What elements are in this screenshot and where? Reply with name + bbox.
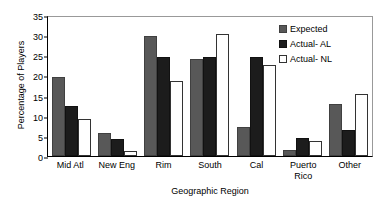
bar-group [48,17,94,156]
x-axis-tick-label: Mid Atl [47,160,94,182]
legend-swatch-expected [279,25,287,33]
x-axis-tick-label-line: South [198,160,222,170]
bar-expected [190,59,203,156]
bar-actual-nl [124,151,137,156]
legend-label: Expected [290,24,328,34]
x-axis-title: Geographic Region [47,186,373,196]
bar-group [233,17,279,156]
x-axis-tick-label-line: Mid Atl [57,160,84,170]
x-axis-tick-label-line: Puerto [290,160,317,170]
legend-label: Actual- NL [290,54,332,64]
bar-chart: Percentage of Players 05101520253035 Mid… [0,0,389,209]
y-axis-tick-label: 10 [3,113,48,123]
bar-expected [144,36,157,156]
bar-group [141,17,187,156]
bar-actual-al [157,57,170,156]
x-axis-tick-label-line: Cal [250,160,264,170]
bar-expected [283,150,296,156]
bar-actual-nl [78,119,91,156]
chart-legend: ExpectedActual- ALActual- NL [279,24,332,64]
bar-group [94,17,140,156]
bar-actual-nl [263,65,276,156]
x-axis-tick-label: Rim [140,160,187,182]
bar-actual-nl [355,94,368,156]
y-axis-tick-label: 25 [3,52,48,62]
legend-swatch-actual-al [279,40,287,48]
y-axis-tick-label: 20 [3,72,48,82]
bar-group [187,17,233,156]
bar-actual-al [111,139,124,156]
bar-actual-nl [309,141,322,156]
bar-group [326,17,372,156]
x-axis-tick-label-line: Other [339,160,362,170]
legend-item: Actual- AL [279,39,332,49]
y-axis-tick-label: 30 [3,32,48,42]
bar-actual-al [250,57,263,156]
legend-item: Actual- NL [279,54,332,64]
legend-swatch-actual-nl [279,55,287,63]
x-axis-tick-label: New Eng [94,160,141,182]
bar-actual-al [342,130,355,156]
x-axis-tick-label: Other [326,160,373,182]
y-axis-tick-mark [44,158,48,159]
x-axis-tick-label: PuertoRico [280,160,327,182]
x-axis-tick-labels: Mid AtlNew EngRimSouthCalPuertoRicoOther [47,160,373,182]
bar-expected [329,104,342,156]
bar-actual-al [203,57,216,156]
bar-expected [52,77,65,156]
bar-expected [237,127,250,156]
y-axis-tick-label: 15 [3,93,48,103]
bar-actual-nl [216,34,229,156]
x-axis-tick-label-line: Rico [280,171,327,182]
legend-item: Expected [279,24,332,34]
x-axis-tick-label-line: Rim [155,160,171,170]
y-axis-tick-label: 5 [3,133,48,143]
x-axis-tick-label-line: New Eng [99,160,136,170]
x-axis-tick-label: Cal [233,160,280,182]
x-axis-tick-label: South [187,160,234,182]
legend-label: Actual- AL [290,39,331,49]
y-axis-tick-label: 35 [3,12,48,22]
bar-expected [98,133,111,156]
bar-actual-nl [170,81,183,156]
bar-actual-al [296,138,309,156]
y-axis-tick-label: 0 [3,153,48,163]
bar-actual-al [65,106,78,156]
